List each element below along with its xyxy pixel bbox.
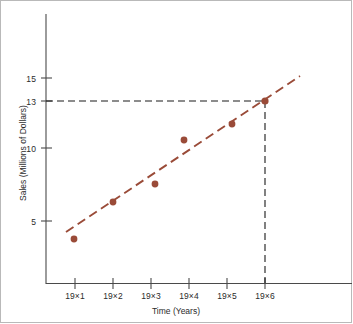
x-tick-label-19x2: 19×2 xyxy=(95,291,131,301)
x-tick-label-19x1: 19×1 xyxy=(57,291,93,301)
data-point-19x4 xyxy=(181,137,188,144)
chart-figure: 15 13 10 5 19×1 19×2 19×3 19×4 19×5 19×6… xyxy=(0,0,353,324)
data-point-19x5 xyxy=(229,121,236,128)
x-axis-title: Time (Years) xyxy=(46,306,306,316)
x-tick-label-19x4: 19×4 xyxy=(171,291,207,301)
data-point-19x2 xyxy=(110,199,117,206)
data-point-19x1 xyxy=(71,236,78,243)
data-point-forecast-19x6 xyxy=(261,97,268,104)
plot-area xyxy=(0,0,353,324)
x-tick-label-19x3: 19×3 xyxy=(133,291,169,301)
y-axis-title: Sales (Millions of Dollars) xyxy=(18,78,28,228)
data-point-19x3 xyxy=(152,181,159,188)
x-tick-label-19x5: 19×5 xyxy=(209,291,245,301)
x-tick-label-19x6: 19×6 xyxy=(247,291,283,301)
